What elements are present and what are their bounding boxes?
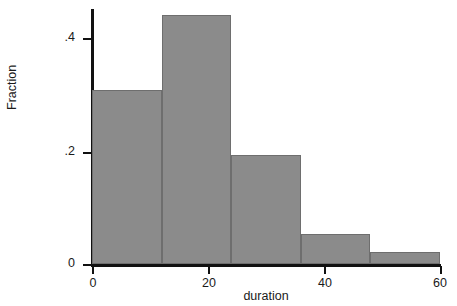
x-axis-tick — [440, 266, 442, 274]
x-axis-tick — [324, 266, 326, 274]
plot-area — [92, 10, 440, 264]
x-axis-tick-label: 0 — [68, 277, 118, 290]
y-axis-tick — [83, 152, 92, 154]
histogram-bar — [370, 252, 440, 264]
y-axis-tick — [83, 264, 92, 266]
y-axis-tick-label: .2 — [35, 145, 75, 158]
x-axis-tick — [92, 266, 94, 274]
y-axis-tick — [83, 38, 92, 40]
y-axis-tick-label: 0 — [35, 257, 75, 270]
histogram-bar — [92, 90, 162, 264]
x-axis-label: duration — [92, 290, 440, 303]
histogram-bar — [301, 234, 371, 264]
y-axis-tick-label: .4 — [35, 31, 75, 44]
x-axis-tick-label: 60 — [415, 277, 457, 290]
x-axis-tick-label: 20 — [184, 277, 234, 290]
x-axis-tick — [208, 266, 210, 274]
histogram-bar — [231, 155, 301, 264]
histogram-bar — [162, 15, 232, 264]
x-axis-line — [91, 264, 441, 267]
y-axis-label: Fraction — [6, 65, 19, 110]
x-axis-tick-label: 40 — [300, 277, 350, 290]
histogram-figure: Fraction .4 .2 0 0 20 40 60 duration — [0, 0, 457, 306]
